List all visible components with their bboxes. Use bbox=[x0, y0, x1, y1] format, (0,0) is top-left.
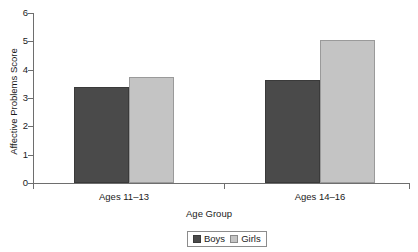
legend-entry-boys: Boys bbox=[193, 234, 225, 244]
x-tick-end bbox=[409, 184, 410, 189]
y-tick-1 bbox=[28, 155, 33, 156]
y-tick-label-6: 6 bbox=[2, 8, 28, 18]
legend-label-girls: Girls bbox=[241, 234, 261, 244]
y-tick-5 bbox=[28, 41, 33, 42]
y-axis-line bbox=[33, 13, 34, 184]
y-tick-label-0: 0 bbox=[2, 178, 28, 188]
x-tick-label-ages-11-13: Ages 11–13 bbox=[64, 191, 184, 202]
bar-chart: Affective Problems Score 6 5 4 3 2 1 0 A… bbox=[0, 0, 418, 252]
x-tick-label-ages-14-16: Ages 14–16 bbox=[260, 191, 380, 202]
legend-swatch-boys-icon bbox=[193, 235, 201, 243]
bar-boys-ages-14-16 bbox=[265, 80, 320, 183]
x-tick-middle bbox=[224, 184, 225, 189]
bar-boys-ages-11-13 bbox=[74, 87, 129, 183]
y-tick-6 bbox=[28, 13, 33, 14]
y-tick-label-3: 3 bbox=[2, 93, 28, 103]
legend-swatch-girls-icon bbox=[230, 235, 238, 243]
x-axis-line bbox=[33, 183, 410, 184]
y-tick-3 bbox=[28, 98, 33, 99]
bar-girls-ages-14-16 bbox=[320, 40, 375, 183]
y-tick-label-5: 5 bbox=[2, 36, 28, 46]
chart-legend: Boys Girls bbox=[187, 231, 267, 247]
y-tick-label-2: 2 bbox=[2, 121, 28, 131]
y-tick-label-4: 4 bbox=[2, 65, 28, 75]
x-axis-title: Age Group bbox=[0, 208, 418, 219]
legend-label-boys: Boys bbox=[204, 234, 225, 244]
y-tick-label-1: 1 bbox=[2, 150, 28, 160]
bar-girls-ages-11-13 bbox=[129, 77, 174, 183]
y-tick-4 bbox=[28, 70, 33, 71]
legend-entry-girls: Girls bbox=[230, 234, 261, 244]
x-tick-start bbox=[33, 184, 34, 189]
y-tick-2 bbox=[28, 126, 33, 127]
